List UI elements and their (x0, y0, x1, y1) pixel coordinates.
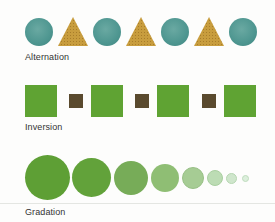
small-brown-square-icon (202, 94, 216, 108)
gradation-circle-icon (182, 167, 204, 189)
small-brown-square-icon (69, 94, 83, 108)
large-green-square-icon (91, 85, 123, 117)
gradation-circle-icon (25, 155, 70, 200)
teal-circle-icon (161, 18, 189, 46)
alternation-label: Alternation (25, 52, 69, 62)
design-principles-diagram: Alternation Inversion Gradation (0, 0, 275, 222)
small-brown-square-icon (135, 94, 149, 108)
large-green-square-icon (224, 85, 256, 117)
gold-triangle-icon (58, 17, 88, 46)
teal-circle-icon (229, 18, 257, 46)
gradation-circle-icon (151, 164, 179, 192)
gold-triangle-icon (126, 17, 156, 46)
gradation-circle-icon (226, 173, 237, 184)
gradation-label: Gradation (25, 207, 65, 217)
large-green-square-icon (25, 85, 57, 117)
divider-line (0, 203, 275, 204)
teal-circle-icon (93, 18, 121, 46)
teal-circle-icon (25, 18, 53, 46)
gradation-circle-icon (72, 158, 111, 197)
inversion-label: Inversion (25, 122, 62, 132)
gradation-circle-icon (207, 170, 223, 186)
gold-triangle-icon (194, 17, 224, 46)
gradation-circle-icon (114, 161, 148, 195)
gradation-circle-icon (242, 175, 249, 182)
large-green-square-icon (157, 85, 189, 117)
